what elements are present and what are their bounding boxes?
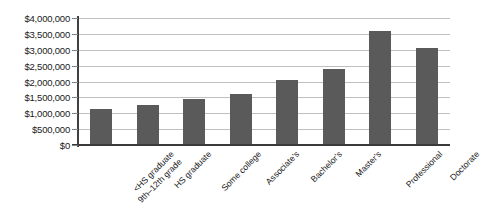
x-axis-tick-label-line: Master's <box>353 149 383 179</box>
x-axis-tick-label-line: Professional <box>404 149 445 190</box>
x-axis-tick-label-line: HS graduate <box>172 149 214 191</box>
x-axis-tick-label-line: Associate's <box>263 149 301 187</box>
x-axis-tick-label: Doctorate <box>448 149 481 183</box>
x-axis-tick-label: Professional <box>404 149 445 190</box>
x-axis-tick-label: Master's <box>353 149 383 179</box>
x-axis-tick-label: Bachelor's <box>309 149 345 185</box>
x-axis-tick-label-line: Bachelor's <box>309 149 345 185</box>
x-axis-tick-label: HS graduate <box>172 149 214 191</box>
x-axis-tick-label-line: Doctorate <box>448 149 481 183</box>
x-axis-tick-label-line: Some college <box>220 149 264 193</box>
x-axis-tick-label: Some college <box>220 149 264 193</box>
x-axis-tick-label: <HS graduate9th–12th grade <box>128 149 184 205</box>
x-axis-tick-label: Associate's <box>263 149 301 187</box>
